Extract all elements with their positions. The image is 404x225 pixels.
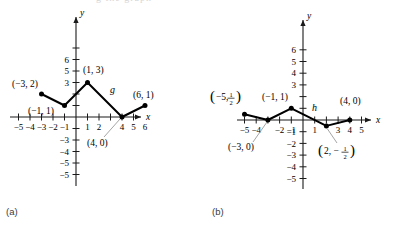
svg-text:(: (: [210, 88, 215, 105]
panel-b-ytick-4: 4: [292, 68, 297, 78]
panel-b-ytick--2: −2: [286, 139, 296, 149]
panel-b-graph-h: [245, 108, 350, 126]
panel-b-function-label-h: h: [312, 102, 317, 113]
panel-b-ytick-6: 6: [292, 45, 297, 55]
panel-b-label--1-1: (−1, 1): [262, 92, 288, 103]
svg-text:1: 1: [229, 91, 232, 98]
panel-b-label-4-0: (4, 0): [340, 96, 361, 107]
svg-text:2: 2: [229, 99, 232, 106]
panel-b-caption: (b): [212, 206, 224, 217]
panel-b-label--3-0: (−3, 0): [228, 142, 254, 153]
panel-b-xtick--4: −4: [251, 125, 261, 135]
svg-text:−5,: −5,: [216, 92, 228, 102]
panel-b-x-axis-label: x: [375, 115, 381, 125]
svg-text:2, −: 2, −: [324, 146, 339, 156]
panel-b-xtick-1: 1: [312, 125, 317, 135]
svg-text:1: 1: [343, 145, 346, 152]
panel-b-ytick-3: 3: [292, 80, 297, 90]
panel-b-xtick-3: 3: [336, 125, 341, 135]
panel-b-ytick-5: 5: [292, 57, 297, 67]
panel-b-label-2--half: ( 2, − 1 2 ): [318, 142, 355, 160]
panel-b-ytick--3: −3: [286, 150, 296, 160]
panel-b-figure: x y −5 −4 −2 −1 1 3 4 5 6 5 4 3 −1 −2 −3…: [0, 0, 404, 225]
svg-text:): ): [350, 142, 355, 159]
panel-b-y-axis-label: y: [306, 11, 312, 21]
panel-b-xtick--2: −2: [275, 125, 285, 135]
panel-b-ytick--4: −4: [286, 162, 296, 172]
panel-b-xtick--5: −5: [240, 125, 250, 135]
panel-a-caption: (a): [6, 206, 18, 217]
svg-text:(: (: [318, 142, 323, 159]
panel-b-ytick--1: −1: [286, 127, 296, 137]
svg-text:2: 2: [343, 153, 346, 160]
panel-b-label--5-half: ( −5, 1 2 ): [210, 88, 241, 106]
svg-text:): ): [236, 88, 241, 105]
panel-b-xtick-5: 5: [359, 125, 364, 135]
panel-b-ytick--5: −5: [286, 174, 296, 184]
panel-b-xtick-4: 4: [348, 125, 353, 135]
